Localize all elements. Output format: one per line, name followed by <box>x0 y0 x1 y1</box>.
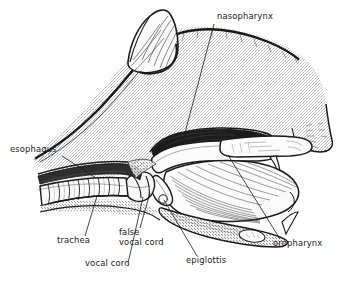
anatomy-figure: nasopharynx esophagus trachea false voca… <box>0 0 343 286</box>
label-false-vocal-cord-line1: false <box>119 227 140 237</box>
label-esophagus: esophagus <box>10 144 57 154</box>
label-false-vocal-cord-line2: vocal cord <box>119 237 164 247</box>
anatomy-illustration: nasopharynx esophagus trachea false voca… <box>0 0 343 286</box>
tongue <box>164 160 299 223</box>
label-trachea: trachea <box>57 235 90 245</box>
hard-palate <box>220 136 312 157</box>
label-nasopharynx: nasopharynx <box>217 11 273 21</box>
label-epiglottis: epiglottis <box>186 255 226 265</box>
label-oropharynx: oropharynx <box>273 238 322 248</box>
label-vocal-cord: vocal cord <box>85 258 130 268</box>
